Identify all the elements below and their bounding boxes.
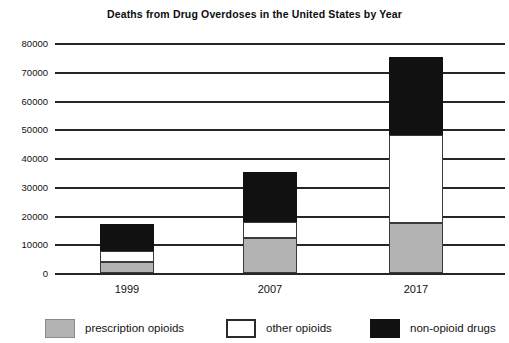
gray-swatch-icon <box>45 319 75 338</box>
segment-non-opioid-drugs-2007 <box>243 172 297 221</box>
y-tick-label-30000: 30000 <box>0 181 52 192</box>
legend-label-other-opioids: other opioids <box>266 322 332 334</box>
y-tick-label-40000: 40000 <box>0 153 52 164</box>
y-tick-label-20000: 20000 <box>0 210 52 221</box>
x-tick-label-2007: 2007 <box>210 283 330 295</box>
gridline-80000 <box>55 43 505 45</box>
segment-other-opioids-2007 <box>243 222 297 238</box>
segment-prescription-opioids-2017 <box>389 223 443 273</box>
segment-non-opioid-drugs-2017 <box>389 57 443 135</box>
segment-other-opioids-2017 <box>389 135 443 223</box>
legend-item-prescription-opioids: prescription opioids <box>45 315 184 341</box>
y-tick-label-50000: 50000 <box>0 124 52 135</box>
y-tick-label-0: 0 <box>0 268 52 279</box>
plot-area <box>55 43 505 273</box>
legend-item-non-opioid-drugs: non-opioid drugs <box>370 315 496 341</box>
y-tick-label-70000: 70000 <box>0 66 52 77</box>
bar-2017 <box>389 57 443 273</box>
white-swatch-icon <box>226 319 256 338</box>
chart-title: Deaths from Drug Overdoses in the United… <box>0 8 509 20</box>
y-tick-label-60000: 60000 <box>0 95 52 106</box>
bar-2007 <box>243 172 297 273</box>
chart-legend: prescription opioids other opioids non-o… <box>0 315 509 343</box>
segment-prescription-opioids-2007 <box>243 238 297 273</box>
x-tick-label-1999: 1999 <box>67 283 187 295</box>
segment-other-opioids-1999 <box>100 251 154 262</box>
segment-prescription-opioids-1999 <box>100 262 154 273</box>
legend-item-other-opioids: other opioids <box>226 315 332 341</box>
y-tick-label-10000: 10000 <box>0 239 52 250</box>
gridline-0-baseline <box>55 273 505 275</box>
y-tick-label-80000: 80000 <box>0 38 52 49</box>
x-axis-labels: 1999 2007 2017 <box>0 283 509 303</box>
segment-non-opioid-drugs-1999 <box>100 224 154 251</box>
overdose-deaths-chart: Deaths from Drug Overdoses in the United… <box>0 0 509 343</box>
black-swatch-icon <box>370 319 400 338</box>
x-tick-label-2017: 2017 <box>356 283 476 295</box>
bar-1999 <box>100 224 154 273</box>
legend-label-non-opioid-drugs: non-opioid drugs <box>410 322 496 334</box>
legend-label-prescription-opioids: prescription opioids <box>85 322 184 334</box>
